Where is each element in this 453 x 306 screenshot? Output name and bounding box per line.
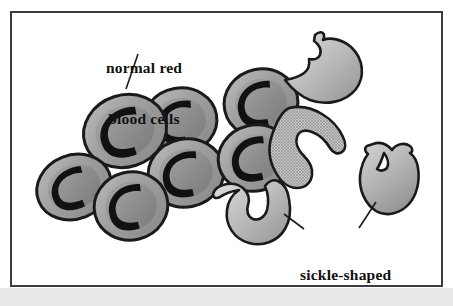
label-normal-line-2: blood cells (84, 110, 204, 127)
label-sickle-line-1: sickle-shaped (300, 266, 442, 283)
label-normal-line-1: normal red (84, 59, 204, 76)
illustration-frame: normal red blood cells sickle-shaped red… (10, 11, 443, 287)
sickle-cell-middle-textured (270, 107, 346, 188)
label-sickle-shaped-red-blood-cells: sickle-shaped red blood cells (300, 232, 442, 287)
label-normal-red-blood-cells: normal red blood cells (84, 25, 204, 161)
sickle-cell-top-right (285, 32, 362, 102)
leader-line-sickle-right (359, 202, 376, 228)
figure-container: normal red blood cells sickle-shaped red… (0, 0, 453, 306)
sickle-cell-right (360, 143, 419, 214)
bottom-gray-band (0, 288, 453, 306)
